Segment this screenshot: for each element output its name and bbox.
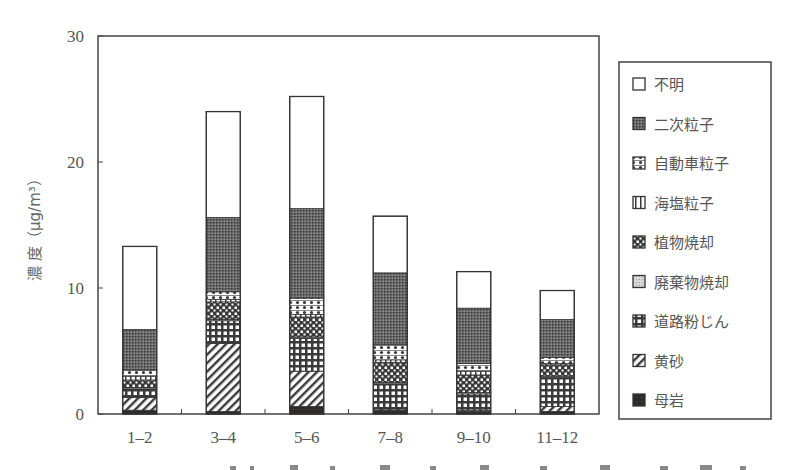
bar-segment xyxy=(457,394,491,410)
bar-5–6 xyxy=(290,96,324,414)
bar-segment xyxy=(540,377,574,406)
x-tick-label: 3–4 xyxy=(211,428,237,447)
legend-swatch-icon xyxy=(633,78,645,90)
bar-segment xyxy=(457,308,491,363)
bar-segment xyxy=(123,398,157,411)
bar-segment xyxy=(206,292,240,300)
bar-segment xyxy=(540,320,574,358)
bar-segment xyxy=(373,384,407,409)
bar-segment xyxy=(540,357,574,363)
bar-segment xyxy=(123,246,157,329)
bar-11–12 xyxy=(540,291,574,414)
legend-label: 不明 xyxy=(654,76,684,94)
bar-segment xyxy=(540,406,574,411)
legend-label: 自動車粒子 xyxy=(654,155,729,173)
stacked-bar-chart: 濃 度（μg/m³） 0102030 1–23–45–67–89–1011–12… xyxy=(0,0,792,470)
bar-segment xyxy=(206,302,240,320)
x-tick-label: 5–6 xyxy=(294,428,320,447)
bar-segment xyxy=(123,380,157,388)
legend-swatch-icon xyxy=(633,394,645,406)
x-tick-label: 9–10 xyxy=(457,428,491,447)
cropped-caption xyxy=(230,465,746,470)
legend-swatch-icon xyxy=(633,197,645,209)
y-tick-label: 30 xyxy=(67,27,84,46)
x-tick-label: 11–12 xyxy=(536,428,578,447)
legend-label: 道路粉じん xyxy=(654,313,729,331)
bar-segment xyxy=(290,338,324,371)
legend-label: 黄砂 xyxy=(654,353,684,371)
bar-9–10 xyxy=(457,272,491,414)
bar-segment xyxy=(206,321,240,344)
bar-segment xyxy=(373,362,407,382)
y-tick-label: 0 xyxy=(76,405,85,424)
legend-swatch-icon xyxy=(633,118,645,130)
bar-segment xyxy=(123,389,157,398)
x-tick-label: 1–2 xyxy=(127,428,153,447)
bar-segment xyxy=(290,209,324,298)
bar-segment xyxy=(457,364,491,372)
legend-label: 廃棄物焼却 xyxy=(654,274,729,292)
legend-label: 母岩 xyxy=(654,392,684,410)
legend-label: 植物焼却 xyxy=(654,234,714,252)
legend-swatch-icon xyxy=(633,276,645,288)
bar-segment xyxy=(373,345,407,360)
bar-segment xyxy=(123,330,157,370)
y-tick-label: 20 xyxy=(67,153,84,172)
y-axis-label: 濃 度（μg/m³） xyxy=(26,171,44,281)
bar-segment xyxy=(290,96,324,208)
bar-segment xyxy=(206,217,240,291)
legend-swatch-icon xyxy=(633,236,645,248)
bar-segment xyxy=(206,112,240,218)
bar-segment xyxy=(123,370,157,376)
bars xyxy=(123,96,575,414)
bar-segment xyxy=(206,343,240,411)
plot-frame xyxy=(98,36,599,414)
bar-segment xyxy=(290,298,324,314)
bar-segment xyxy=(290,371,324,406)
y-tick-label: 10 xyxy=(67,279,84,298)
bar-segment xyxy=(290,317,324,337)
bar-segment xyxy=(540,291,574,320)
bar-segment xyxy=(457,375,491,393)
legend-swatch-icon xyxy=(633,157,645,169)
bar-segment xyxy=(373,273,407,345)
bar-7–8 xyxy=(373,216,407,414)
bar-segment xyxy=(457,272,491,309)
legend-label: 二次粒子 xyxy=(654,116,714,134)
legend-swatch-icon xyxy=(633,315,645,327)
bar-segment xyxy=(373,216,407,273)
bar-segment xyxy=(290,406,324,414)
bar-segment xyxy=(540,365,574,376)
bar-segment xyxy=(123,376,157,380)
legend-swatch-icon xyxy=(633,355,645,367)
bar-3–4 xyxy=(206,112,240,414)
bar-segment xyxy=(457,371,491,375)
legend-label: 海塩粒子 xyxy=(654,195,714,213)
bar-1–2 xyxy=(123,246,157,414)
x-tick-label: 7–8 xyxy=(378,428,404,447)
